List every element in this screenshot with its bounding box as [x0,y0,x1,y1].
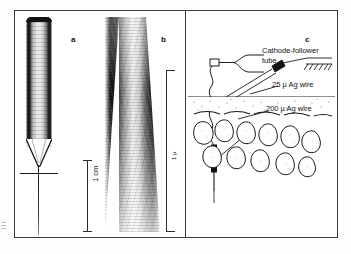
bracket-cap-top [166,70,175,71]
magnified-left-mask [105,17,119,232]
bracket-cap-bottom [166,231,175,232]
pipette-taper [26,139,52,167]
cathode-follower-connector [210,55,264,72]
panel-a-pipette-photo [26,17,52,147]
bracket-line [166,70,167,232]
magnified-right-mask [146,17,160,232]
pipette-reference-tick [20,173,58,174]
scale-bar-line [87,160,88,232]
page-edge-artifact [1,222,6,229]
pipette-film-grain [26,17,52,147]
panel-letter-a: a [71,35,76,44]
scale-bar-label: 1 cm [91,166,100,182]
pipette-tip-needle [38,165,39,235]
ag-wire-200-label: 200 µ Ag wire [266,104,312,114]
cathode-follower-tube-label: Cathode-follower tube [262,46,319,65]
figure-plate: a 1 cm b 1 µ [0,0,351,254]
panel-c-schematic: Cathode-follower tube 25 µ Ag wire 200 µ… [186,11,337,237]
panel-b-bracket-label: 1 µ [171,152,177,160]
scale-bar-cap-bottom [83,231,92,232]
panel-b-tip-photo [105,17,160,232]
cell-outlines [194,120,321,177]
cathode-follower-tube-line1: Cathode-follower [262,46,319,56]
panel-letter-b: b [161,35,166,44]
pipette-top-end [26,17,52,22]
panel-letter-c: c [305,35,310,44]
tissue-surface-stipple [188,97,335,111]
ag-wire-25-label: 25 µ Ag wire [272,80,313,90]
cathode-follower-tube-line2: tube [262,56,319,66]
